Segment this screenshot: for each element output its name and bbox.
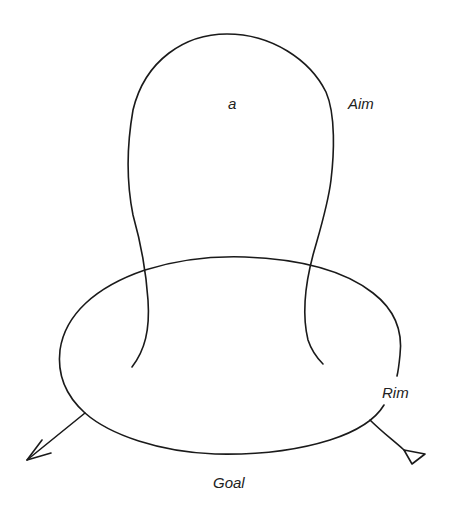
- label-aim: Aim: [347, 95, 374, 112]
- right-tail-line: [370, 420, 404, 450]
- left-arrow-line: [27, 413, 85, 460]
- label-goal: Goal: [213, 474, 245, 491]
- diagram-canvas: a Aim Rim Goal: [0, 0, 453, 508]
- label-a: a: [228, 95, 236, 112]
- aim-loop: [128, 34, 333, 367]
- right-triangle-icon: [404, 450, 425, 464]
- rim-ellipse: [59, 257, 400, 454]
- label-rim: Rim: [382, 384, 409, 401]
